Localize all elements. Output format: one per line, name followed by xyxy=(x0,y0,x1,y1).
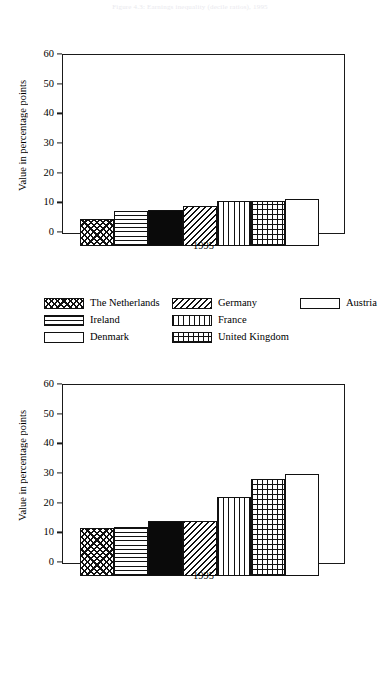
bar-greece xyxy=(285,474,319,576)
y-tick-label: 30 xyxy=(44,468,55,479)
y-tick-label: 30 xyxy=(44,138,55,149)
y-tick-label: 60 xyxy=(44,379,55,390)
legend-swatch-grid-icon xyxy=(172,332,212,343)
legend-label: The Netherlands xyxy=(90,298,160,309)
bar-series-top xyxy=(63,68,319,246)
bar-spain xyxy=(251,479,285,576)
legend-swatch-horizontal-lines-icon xyxy=(44,315,84,326)
plot-area-bottom: Value in percentage points 0102030405060… xyxy=(0,344,380,576)
y-tick-label: 20 xyxy=(44,167,55,178)
y-tick-label: 20 xyxy=(44,497,55,508)
legend-swatch-checkerboard-icon xyxy=(44,298,84,309)
y-tick-label: 40 xyxy=(44,108,55,119)
bar-belgium xyxy=(183,521,217,576)
legend-swatch-vertical-lines-icon xyxy=(172,315,212,326)
legend-swatch-solid-black-icon xyxy=(44,332,84,343)
legend-swatch-empty-icon xyxy=(300,298,340,309)
x-axis-label: 1995 xyxy=(62,570,345,581)
bar-portugal xyxy=(80,528,114,576)
bar-sweden xyxy=(114,527,148,576)
bar-series-bottom xyxy=(63,398,319,576)
y-axis-ticks-top: 0102030405060 xyxy=(0,54,62,234)
y-tick-label: 60 xyxy=(44,49,55,60)
legend-item-denmark: Denmark xyxy=(44,330,172,345)
y-tick-label: 0 xyxy=(49,557,54,568)
y-tick-label: 10 xyxy=(44,527,55,538)
legend-item-ireland: Ireland xyxy=(44,313,172,328)
legend-label: France xyxy=(218,315,247,326)
faint-header-text: Figure 4.3: Earnings inequality (decile … xyxy=(0,0,380,14)
y-tick-label: 50 xyxy=(44,408,55,419)
legend-item-austria: Austria xyxy=(300,296,380,311)
legend-label: Ireland xyxy=(90,315,120,326)
legend-item-the-netherlands: The Netherlands xyxy=(44,296,172,311)
y-axis-ticks-bottom: 0102030405060 xyxy=(0,384,62,564)
y-tick-label: 0 xyxy=(49,227,54,238)
chart-top: Value in percentage points 0102030405060… xyxy=(0,14,380,340)
legend-item-united-kingdom: United Kingdom xyxy=(172,330,300,345)
y-tick-label: 10 xyxy=(44,197,55,208)
figure-page: Figure 4.3: Earnings inequality (decile … xyxy=(0,0,380,676)
legend-label: Denmark xyxy=(90,332,129,343)
chart-bottom: Value in percentage points 0102030405060… xyxy=(0,344,380,676)
x-axis-label: 1995 xyxy=(62,240,345,251)
legend-swatch-diagonal-hatch-icon xyxy=(172,298,212,309)
legend-item-france: France xyxy=(172,313,300,328)
bar-italy xyxy=(217,497,251,577)
legend-top: The NetherlandsGermanyAustriaIrelandFran… xyxy=(44,296,380,345)
bar-finland xyxy=(148,521,182,576)
legend-label: United Kingdom xyxy=(218,332,289,343)
y-tick-label: 50 xyxy=(44,78,55,89)
plot-area-top: Value in percentage points 0102030405060… xyxy=(0,14,380,246)
legend-label: Germany xyxy=(218,298,257,309)
y-tick-label: 40 xyxy=(44,438,55,449)
legend-item-germany: Germany xyxy=(172,296,300,311)
legend-label: Austria xyxy=(346,298,377,309)
